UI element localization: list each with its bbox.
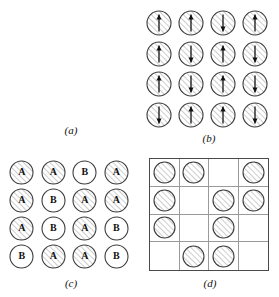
atom-cell: B	[6, 242, 38, 270]
spin-down-arrow-icon	[178, 41, 204, 67]
sign-cell	[69, 64, 101, 92]
lattice-cell-empty	[209, 159, 239, 187]
atom-label: B	[41, 216, 66, 241]
spin-cell	[207, 39, 239, 70]
atom-label: A	[9, 160, 34, 185]
panel-b: (b)	[143, 8, 275, 148]
atom-label: B	[9, 244, 34, 269]
spin-grid	[143, 8, 271, 130]
spin-down-arrow-icon	[210, 10, 236, 36]
atom-label: B	[41, 188, 66, 213]
sign-cell	[69, 36, 101, 64]
atom-cell: A	[6, 158, 38, 186]
sign-cell	[38, 92, 70, 120]
spin-down-arrow-icon	[146, 102, 172, 128]
spin-down-arrow-icon	[242, 71, 268, 97]
spin-down-arrow-icon	[178, 71, 204, 97]
atom-cell: A	[69, 214, 101, 242]
panel-d-body	[145, 158, 275, 271]
atom-a-circle: A	[9, 188, 34, 213]
atom-b-circle: B	[9, 244, 34, 269]
plus-sign-icon	[12, 13, 31, 32]
atom-a-circle: A	[72, 244, 97, 269]
lattice-cell-occupied	[150, 215, 180, 243]
lattice-cell-occupied	[180, 242, 210, 270]
atom-label: A	[41, 244, 66, 269]
spin-cell	[175, 8, 207, 39]
lattice-cell-occupied	[239, 159, 269, 187]
spin-cell	[207, 100, 239, 131]
spin-cell	[175, 100, 207, 131]
atom-a-circle: A	[41, 244, 66, 269]
atom-label: A	[9, 216, 34, 241]
lattice-cell-empty	[239, 215, 269, 243]
sign-cell	[69, 8, 101, 36]
lattice-cell-occupied	[239, 187, 269, 215]
atom-a-circle: A	[9, 216, 34, 241]
atom-cell: B	[101, 242, 133, 270]
minus-sign-icon	[107, 97, 126, 116]
atom-cell: A	[101, 158, 133, 186]
spin-down-arrow-icon	[242, 41, 268, 67]
spin-up-arrow-icon	[210, 41, 236, 67]
spin-cell	[239, 8, 271, 39]
lattice-cell-occupied	[209, 215, 239, 243]
atom-a-circle: A	[41, 160, 66, 185]
atom-label: B	[104, 244, 129, 269]
panel-a-label: (a)	[6, 124, 136, 136]
plus-sign-icon	[75, 69, 94, 88]
plus-sign-icon	[107, 13, 126, 32]
plus-sign-icon	[75, 41, 94, 60]
spin-cell	[239, 100, 271, 131]
atom-cell: A	[6, 214, 38, 242]
sign-cell	[101, 8, 133, 36]
plus-sign-icon	[107, 41, 126, 60]
lattice-cell-empty	[180, 215, 210, 243]
atom-grid: AABAABAAABABBAAB	[6, 158, 132, 270]
atom-cell: A	[38, 158, 70, 186]
atom-cell: A	[69, 186, 101, 214]
atom-cell: A	[6, 186, 38, 214]
spin-cell	[239, 69, 271, 100]
hatched-circle-icon	[212, 189, 235, 212]
minus-sign-icon	[44, 69, 63, 88]
lattice-cell-empty	[180, 187, 210, 215]
spin-cell	[143, 39, 175, 70]
atom-label: A	[72, 244, 97, 269]
sign-cell	[101, 92, 133, 120]
lattice-cell-occupied	[150, 159, 180, 187]
atom-cell: A	[38, 242, 70, 270]
sign-cell	[38, 36, 70, 64]
atom-b-circle: B	[104, 216, 129, 241]
atom-label: A	[72, 216, 97, 241]
atom-a-circle: A	[104, 188, 129, 213]
hatched-circle-icon	[242, 189, 265, 212]
hatched-circle-icon	[212, 245, 235, 268]
lattice-cell-occupied	[209, 242, 239, 270]
spin-cell	[175, 69, 207, 100]
minus-sign-icon	[12, 97, 31, 116]
panel-a: (a)	[6, 8, 136, 148]
sign-cell	[6, 64, 38, 92]
panel-a-body	[6, 8, 136, 120]
spin-cell	[207, 8, 239, 39]
spin-up-arrow-icon	[146, 41, 172, 67]
spin-cell	[175, 39, 207, 70]
panel-d: (d)	[145, 158, 275, 294]
hatched-circle-icon	[182, 161, 205, 184]
atom-b-circle: B	[41, 216, 66, 241]
hatched-circle-icon	[153, 161, 176, 184]
hatched-circle-icon	[182, 245, 205, 268]
spin-down-arrow-icon	[242, 102, 268, 128]
spin-cell	[143, 69, 175, 100]
atom-a-circle: A	[72, 188, 97, 213]
sign-cell	[101, 36, 133, 64]
panel-b-label: (b)	[143, 132, 275, 144]
minus-sign-icon	[107, 69, 126, 88]
plus-sign-icon	[12, 69, 31, 88]
atom-label: A	[104, 160, 129, 185]
atom-a-circle: A	[104, 160, 129, 185]
spin-up-arrow-icon	[242, 10, 268, 36]
lattice-cell-occupied	[180, 159, 210, 187]
spin-up-arrow-icon	[146, 10, 172, 36]
